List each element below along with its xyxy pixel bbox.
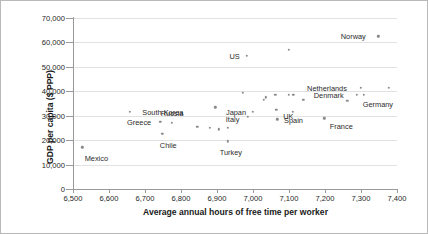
data-point-label: Denmark: [314, 90, 344, 99]
x-tick-label: 6,800: [171, 194, 190, 203]
y-tick-label: 50,000: [42, 62, 65, 71]
x-tick-mark: [361, 189, 362, 193]
data-point: [377, 35, 379, 37]
gridline: [73, 91, 397, 92]
x-tick-label: 6,600: [99, 194, 118, 203]
scatter-chart-figure: GDP per capita ($ PPP) Average annual ho…: [0, 0, 428, 234]
x-tick-mark: [289, 189, 290, 193]
data-point: [292, 94, 294, 96]
data-point: [209, 127, 211, 129]
x-tick-mark: [397, 189, 398, 193]
gridline: [73, 140, 397, 141]
data-point-label: Spain: [284, 116, 303, 125]
x-tick-mark: [73, 189, 74, 193]
data-point: [360, 86, 362, 88]
x-tick-mark: [145, 189, 146, 193]
data-point: [196, 126, 198, 128]
x-tick-label: 6,900: [207, 194, 226, 203]
y-tick-mark: [66, 116, 73, 117]
y-axis-line: [73, 17, 74, 190]
data-point: [346, 100, 348, 102]
y-tick-label: 40,000: [42, 87, 65, 96]
x-axis-ticks: 6,5006,6006,7006,8006,9007,0007,1007,200…: [1, 189, 428, 229]
x-tick-label: 7,200: [315, 194, 334, 203]
gridline: [73, 67, 397, 68]
x-tick-mark: [217, 189, 218, 193]
data-point-label: Russia: [161, 109, 184, 118]
x-tick-label: 7,000: [243, 194, 262, 203]
data-point-label: US: [229, 51, 239, 60]
data-point: [263, 99, 265, 101]
gridline: [73, 18, 397, 19]
y-tick-label: 70,000: [42, 14, 65, 23]
gridline: [73, 42, 397, 43]
data-point-label: France: [330, 122, 353, 131]
data-point: [355, 94, 357, 96]
data-point: [129, 111, 131, 113]
data-point: [302, 99, 304, 101]
data-point-label: Japan: [226, 108, 246, 117]
data-point-label: Greece: [127, 117, 151, 126]
data-point: [81, 146, 83, 148]
x-tick-label: 6,500: [63, 194, 82, 203]
data-point: [388, 86, 390, 88]
data-point-label: Mexico: [85, 154, 108, 163]
data-point: [275, 108, 277, 110]
data-point-label: Turkey: [220, 148, 242, 157]
x-tick-label: 7,300: [351, 194, 370, 203]
data-point: [274, 94, 276, 96]
x-tick-label: 7,100: [279, 194, 298, 203]
data-point: [363, 94, 365, 96]
data-point: [288, 49, 290, 51]
y-tick-mark: [66, 67, 73, 68]
data-point: [227, 127, 229, 129]
data-point: [218, 128, 220, 130]
data-point-label: Chile: [160, 141, 177, 150]
y-tick-label: 60,000: [42, 38, 65, 47]
x-tick-mark: [325, 189, 326, 193]
y-tick-mark: [66, 18, 73, 19]
y-tick-mark: [66, 140, 73, 141]
y-tick-label: 10,000: [42, 160, 65, 169]
plot-area: MexicoSouth KoreaGreeceRussiaChileTurkey…: [73, 18, 397, 189]
data-point: [276, 118, 278, 120]
data-point: [323, 117, 325, 119]
data-point: [214, 106, 216, 108]
x-tick-mark: [109, 189, 110, 193]
data-point: [252, 111, 254, 113]
x-tick-mark: [253, 189, 254, 193]
data-point: [159, 121, 161, 123]
data-point: [171, 122, 173, 124]
data-point: [245, 55, 247, 57]
data-point-label: Germany: [363, 99, 393, 108]
data-point: [264, 96, 266, 98]
y-tick-mark: [66, 165, 73, 166]
y-tick-mark: [66, 91, 73, 92]
y-tick-mark: [66, 42, 73, 43]
data-point-label: Norway: [341, 32, 366, 41]
y-tick-label: 30,000: [42, 111, 65, 120]
x-tick-label: 7,400: [387, 194, 406, 203]
x-tick-mark: [181, 189, 182, 193]
gridline: [73, 165, 397, 166]
data-point: [161, 133, 163, 135]
y-tick-label: 20,000: [42, 136, 65, 145]
x-tick-label: 6,700: [135, 194, 154, 203]
data-point: [288, 94, 290, 96]
